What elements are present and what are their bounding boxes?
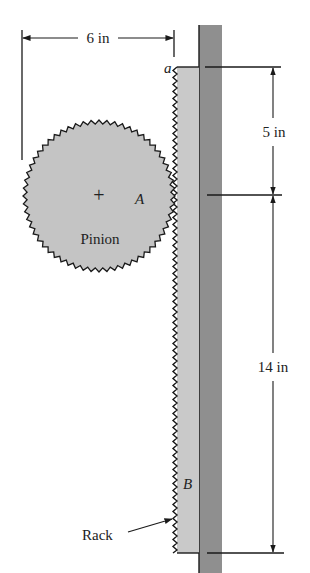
wall: [199, 25, 222, 573]
point-A-label: A: [134, 191, 145, 207]
rack-teeth: [173, 67, 177, 553]
rack-and-pinion-diagram: 6 in 5 in 14 in a + A Pinion B Rack: [0, 0, 310, 573]
rack-label: Rack: [82, 527, 113, 543]
point-a-label: a: [164, 60, 172, 76]
pinion-label: Pinion: [80, 231, 120, 247]
lower-dim-label: 14 in: [258, 359, 289, 375]
pinion-center-mark: +: [93, 184, 104, 206]
width-dim-label: 6 in: [87, 30, 110, 46]
point-B-label: B: [183, 476, 192, 492]
rack-leader: Rack: [82, 519, 172, 543]
upper-dim-label: 5 in: [263, 124, 286, 140]
